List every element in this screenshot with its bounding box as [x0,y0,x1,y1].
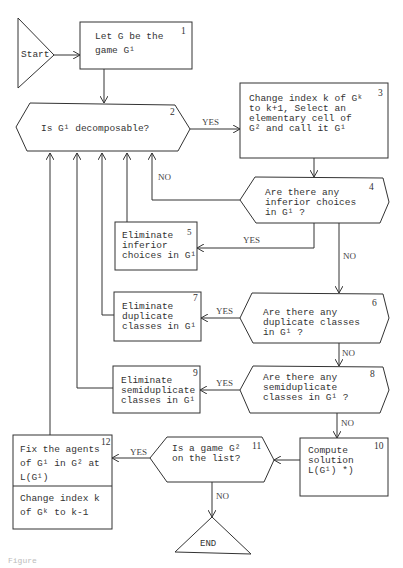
hex-4-text: Are there any inferior choices in G¹ ? [265,188,356,218]
box-10-text: Compute solution L(G¹) *) [308,446,354,476]
hex-2-number: 2 [170,107,175,117]
box-3-number: 3 [378,88,383,98]
box-1-text: Let G be the game G¹ [95,30,163,58]
box-3-text: Change index k of Gᵏ to k+1, Select an e… [249,94,363,134]
hex-11-text: Is a game G² on the list? [172,444,240,464]
edge-label-4-no: NO [343,251,356,261]
edge-label-2-yes: YES [202,117,219,127]
hex-6-text: Are there any duplicate classes in G¹ ? [263,308,360,338]
hex-8-number: 8 [370,369,375,379]
end-label: END [200,539,216,549]
edge-label-6-yes: YES [216,306,233,316]
box-7-text: Eliminate duplicate classes in G¹ [122,302,196,332]
edge-label-11-yes: YES [130,447,147,457]
box-5-text: Eliminate inferior choices in G¹ [122,231,196,261]
edge-label-4-no-back: NO [158,172,171,182]
box-10-number: 10 [374,441,384,451]
hex-8-text: Are there any semiduplicate classes in G… [263,373,349,403]
edge-label-4-yes: YES [243,235,260,245]
edge-label-11-no: NO [216,491,229,501]
edge-label-8-yes: YES [216,378,233,388]
edge-label-6-no: NO [342,348,355,358]
box-12-number: 12 [101,437,111,447]
box-1-number: 1 [181,26,186,36]
figure-caption: Figure [8,556,37,565]
box-12-top-text: Fix the agents of G¹ in G² at L(G¹) [20,443,100,485]
start-label: Start [21,50,50,60]
hex-11-number: 11 [252,441,261,451]
hex-2-text: Is G¹ decomposable? [41,124,149,134]
box-9-text: Eliminate semiduplicate classes in G¹ [121,376,195,406]
box-12-bottom-text: Change index k of Gᵏ to k-1 [20,492,100,520]
hex-4-number: 4 [369,182,374,192]
hex-6-number: 6 [372,298,377,308]
edge-label-8-no: NO [341,418,354,428]
